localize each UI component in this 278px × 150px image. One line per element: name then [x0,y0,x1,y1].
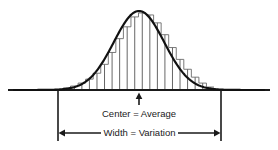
width-variation-label: Width = Variation [104,127,176,138]
bell-curve-svg: Center = Average Width = Variation [0,0,278,150]
right-arrowhead-icon [214,130,221,137]
bell-curve-diagram: Center = Average Width = Variation [0,0,278,150]
histogram-step-outline [63,13,214,88]
center-average-label: Center = Average [102,108,176,119]
bell-curve-path [14,11,264,90]
left-arrowhead-icon [59,130,66,137]
up-arrow-icon [136,93,143,106]
